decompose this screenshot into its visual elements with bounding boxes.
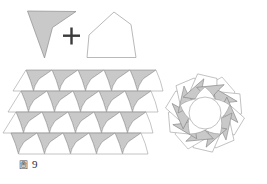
figure-svg-canvas — [0, 0, 267, 184]
strip-row — [13, 70, 163, 91]
figure-caption-glyph: 圖 — [18, 160, 28, 170]
strip-tessellation-panel — [3, 70, 163, 154]
figure-caption: 圖 9 — [18, 159, 38, 170]
strip-row — [8, 91, 158, 112]
strip-row — [11, 133, 148, 154]
figure-caption-number: 9 — [32, 159, 38, 170]
figure-container: 圖 9 — [0, 0, 267, 184]
strip-row — [3, 112, 153, 133]
